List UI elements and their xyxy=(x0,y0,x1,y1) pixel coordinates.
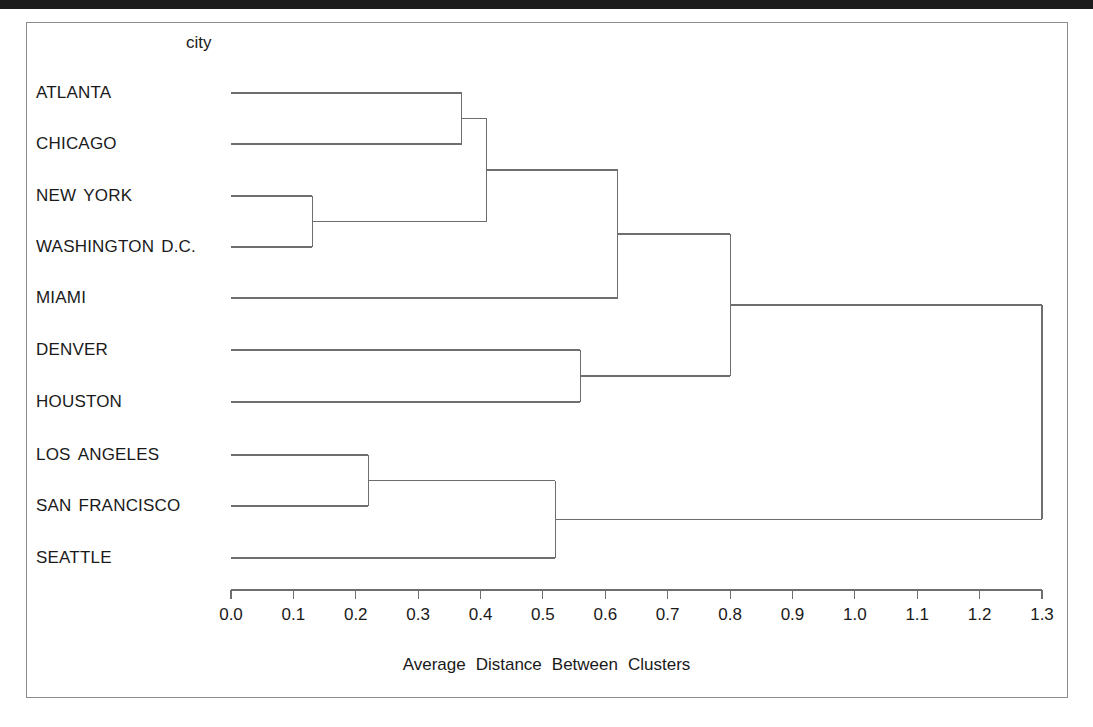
x-tick-label-0.5: 0.5 xyxy=(531,605,555,625)
dendrogram-lines xyxy=(231,93,1042,558)
x-tick-label-0.0: 0.0 xyxy=(219,605,243,625)
x-tick-label-1.1: 1.1 xyxy=(905,605,929,625)
x-axis xyxy=(231,590,1042,599)
x-tick-label-0.4: 0.4 xyxy=(469,605,493,625)
x-tick-label-0.8: 0.8 xyxy=(718,605,742,625)
x-tick-label-0.2: 0.2 xyxy=(344,605,368,625)
x-tick-label-1.2: 1.2 xyxy=(968,605,992,625)
x-tick-label-0.1: 0.1 xyxy=(282,605,306,625)
x-tick-label-0.7: 0.7 xyxy=(656,605,680,625)
x-tick-label-0.6: 0.6 xyxy=(593,605,617,625)
x-tick-label-1.0: 1.0 xyxy=(843,605,867,625)
x-tick-label-0.9: 0.9 xyxy=(781,605,805,625)
x-tick-label-1.3: 1.3 xyxy=(1030,605,1054,625)
axis-title-word: Distance xyxy=(476,655,542,674)
axis-title-word: Average xyxy=(403,655,466,674)
axis-title-word: Clusters xyxy=(628,655,690,674)
x-axis-title: AverageDistanceBetweenClusters xyxy=(0,655,1093,675)
x-tick-label-0.3: 0.3 xyxy=(406,605,430,625)
axis-title-word: Between xyxy=(552,655,618,674)
